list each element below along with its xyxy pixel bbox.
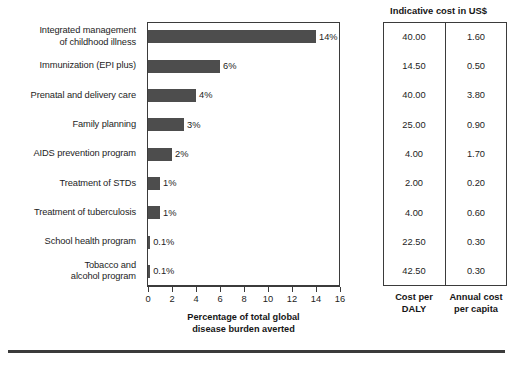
bar-row: 0.1% bbox=[148, 265, 340, 278]
category-label-line: Prenatal and delivery care bbox=[0, 90, 136, 101]
cell-cost-per-daly: 42.50 bbox=[383, 264, 445, 278]
cell-annual-cost-per-capita: 0.60 bbox=[445, 206, 507, 220]
bar bbox=[148, 30, 316, 43]
category-label-line: Treatment of tuberculosis bbox=[0, 207, 136, 218]
category-label: School health program bbox=[0, 236, 136, 247]
bar-value-label: 1% bbox=[160, 208, 176, 218]
bars-layer: 14%6%4%3%2%1%1%0.1%0.1% bbox=[148, 22, 340, 286]
table-row: 22.500.30 bbox=[383, 235, 507, 249]
table-footer-cost-per-daly: Cost perDALY bbox=[383, 292, 445, 315]
category-label-line: Tobacco and bbox=[0, 260, 136, 271]
category-label: Tobacco andalcohol program bbox=[0, 260, 136, 282]
bottom-divider-rule bbox=[8, 350, 505, 353]
cost-table-panel: Indicative cost in US$ 40.001.6014.500.5… bbox=[370, 0, 513, 340]
x-axis-tick-label: 14 bbox=[305, 294, 327, 304]
category-label-line: School health program bbox=[0, 236, 136, 247]
bar-value-label: 14% bbox=[316, 32, 338, 42]
bar-row: 4% bbox=[148, 89, 340, 102]
x-axis-tick-label: 12 bbox=[281, 294, 303, 304]
category-label: Treatment of tuberculosis bbox=[0, 207, 136, 218]
bar-value-label: 1% bbox=[160, 178, 176, 188]
cell-cost-per-daly: 25.00 bbox=[383, 118, 445, 132]
bar-value-label: 6% bbox=[220, 61, 236, 71]
x-axis-tick bbox=[244, 287, 245, 292]
table-row: 14.500.50 bbox=[383, 59, 507, 73]
x-axis-tick bbox=[148, 287, 149, 292]
category-label: Immunization (EPI plus) bbox=[0, 60, 136, 71]
cell-annual-cost-per-capita: 0.50 bbox=[445, 59, 507, 73]
cell-annual-cost-per-capita: 1.70 bbox=[445, 147, 507, 161]
x-axis-title: Percentage of total globaldisease burden… bbox=[147, 312, 340, 335]
table-body: 40.001.6014.500.5040.003.8025.000.904.00… bbox=[383, 22, 507, 286]
bar-row: 6% bbox=[148, 60, 340, 73]
x-axis-tick bbox=[340, 287, 341, 292]
category-axis-labels: Integrated managementof childhood illnes… bbox=[0, 22, 142, 286]
table-footer-line: Annual cost bbox=[445, 292, 507, 304]
category-label: Prenatal and delivery care bbox=[0, 90, 136, 101]
cell-cost-per-daly: 40.00 bbox=[383, 30, 445, 44]
bar-row: 3% bbox=[148, 118, 340, 131]
bar bbox=[148, 60, 220, 73]
x-axis-title-line: Percentage of total global bbox=[147, 312, 340, 324]
x-axis-tick-label: 6 bbox=[209, 294, 231, 304]
bar-value-label: 0.1% bbox=[150, 266, 174, 276]
cell-cost-per-daly: 40.00 bbox=[383, 88, 445, 102]
table-row: 42.500.30 bbox=[383, 264, 507, 278]
table-row: 40.001.60 bbox=[383, 30, 507, 44]
table-row: 4.000.60 bbox=[383, 206, 507, 220]
cell-annual-cost-per-capita: 3.80 bbox=[445, 88, 507, 102]
x-axis-tick bbox=[196, 287, 197, 292]
x-axis-tick-label: 4 bbox=[185, 294, 207, 304]
x-axis-tick-label: 2 bbox=[161, 294, 183, 304]
category-label-line: of childhood illness bbox=[0, 37, 136, 48]
table-row: 40.003.80 bbox=[383, 88, 507, 102]
bar bbox=[148, 148, 172, 161]
bar-value-label: 3% bbox=[184, 120, 200, 130]
bar-row: 0.1% bbox=[148, 236, 340, 249]
bar bbox=[148, 89, 196, 102]
x-axis-title-line: disease burden averted bbox=[147, 324, 340, 336]
category-label-line: Treatment of STDs bbox=[0, 178, 136, 189]
cell-cost-per-daly: 14.50 bbox=[383, 59, 445, 73]
table-footer-line: DALY bbox=[383, 304, 445, 316]
bar-value-label: 4% bbox=[196, 90, 212, 100]
bar bbox=[148, 177, 160, 190]
table-title: Indicative cost in US$ bbox=[370, 5, 507, 16]
category-label-line: Family planning bbox=[0, 119, 136, 130]
cell-cost-per-daly: 22.50 bbox=[383, 235, 445, 249]
category-label-line: Immunization (EPI plus) bbox=[0, 60, 136, 71]
category-label: AIDS prevention program bbox=[0, 148, 136, 159]
cell-annual-cost-per-capita: 0.30 bbox=[445, 235, 507, 249]
bar-value-label: 0.1% bbox=[150, 237, 174, 247]
cell-annual-cost-per-capita: 1.60 bbox=[445, 30, 507, 44]
bar-chart-panel: Integrated managementof childhood illnes… bbox=[0, 0, 350, 340]
bar-row: 1% bbox=[148, 206, 340, 219]
cell-annual-cost-per-capita: 0.30 bbox=[445, 264, 507, 278]
x-axis-tick-label: 16 bbox=[329, 294, 351, 304]
x-axis-tick bbox=[268, 287, 269, 292]
x-axis-tick bbox=[292, 287, 293, 292]
bar-row: 1% bbox=[148, 177, 340, 190]
table-footer-annual-cost-per-capita: Annual costper capita bbox=[445, 292, 507, 315]
table-row: 25.000.90 bbox=[383, 118, 507, 132]
x-axis-tick bbox=[220, 287, 221, 292]
table-footer-line: Cost per bbox=[383, 292, 445, 304]
table-row: 4.001.70 bbox=[383, 147, 507, 161]
x-axis-tick bbox=[316, 287, 317, 292]
cell-cost-per-daly: 4.00 bbox=[383, 206, 445, 220]
cell-cost-per-daly: 4.00 bbox=[383, 147, 445, 161]
x-axis-tick-label: 0 bbox=[137, 294, 159, 304]
bar-value-label: 2% bbox=[172, 149, 188, 159]
x-axis-tick-label: 8 bbox=[233, 294, 255, 304]
x-axis-tick bbox=[172, 287, 173, 292]
category-label-line: alcohol program bbox=[0, 271, 136, 282]
x-axis-tick-label: 10 bbox=[257, 294, 279, 304]
figure-root: Integrated managementof childhood illnes… bbox=[0, 0, 513, 366]
cell-cost-per-daly: 2.00 bbox=[383, 176, 445, 190]
category-label: Integrated managementof childhood illnes… bbox=[0, 25, 136, 47]
table-footer-line: per capita bbox=[445, 304, 507, 316]
bar-row: 14% bbox=[148, 30, 340, 43]
bar bbox=[148, 118, 184, 131]
cell-annual-cost-per-capita: 0.90 bbox=[445, 118, 507, 132]
category-label: Family planning bbox=[0, 119, 136, 130]
